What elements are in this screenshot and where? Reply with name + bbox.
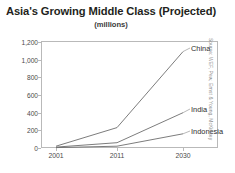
series-line-india (56, 113, 183, 147)
leader-line-china (183, 48, 190, 52)
leader-line-india (183, 109, 190, 113)
source-note: Source: WEF, Pew, Ernst & Young, McKinse… (208, 38, 213, 148)
series-lines (0, 0, 235, 173)
chart-figure: Asia's Growing Middle Class (Projected) … (0, 0, 235, 173)
series-label-india: India (191, 105, 207, 114)
series-line-china (56, 52, 183, 147)
leader-line-indonesia (183, 131, 190, 134)
